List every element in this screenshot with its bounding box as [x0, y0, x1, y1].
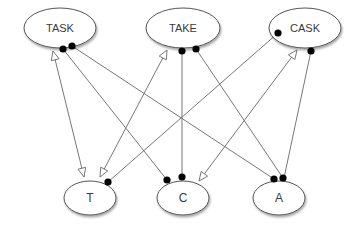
dot-marker-take	[192, 45, 199, 52]
edge-task-c	[63, 49, 167, 180]
edge-task-a	[72, 46, 274, 179]
node-label: TASK	[46, 22, 75, 34]
node-task[interactable]: TASK	[24, 8, 96, 48]
edge-cask-t	[108, 33, 278, 182]
open-arrowhead-icon	[159, 50, 167, 60]
edge-take-a	[196, 49, 283, 178]
dot-marker-task	[59, 45, 66, 52]
diagram-canvas: TASKTAKECASKTCA	[0, 0, 358, 226]
edge-take-t	[100, 50, 167, 177]
node-cask[interactable]: CASK	[269, 8, 341, 48]
node-c[interactable]: C	[157, 181, 209, 215]
dot-marker-take	[178, 47, 185, 54]
dot-marker-cask	[274, 29, 281, 36]
open-arrowhead-icon	[100, 167, 108, 177]
open-arrowhead-icon	[199, 171, 208, 181]
edges-layer	[53, 33, 311, 182]
dot-marker-a	[279, 174, 286, 181]
edge-cask-a	[284, 51, 311, 178]
node-label: C	[179, 191, 188, 205]
node-t[interactable]: T	[64, 181, 116, 215]
markers-layer	[51, 29, 314, 185]
dot-marker-t	[104, 178, 111, 185]
node-label: T	[86, 191, 94, 205]
open-arrowhead-icon	[288, 50, 297, 60]
node-label: TAKE	[169, 22, 197, 34]
node-label: A	[275, 191, 283, 205]
node-label: CASK	[290, 22, 321, 34]
node-take[interactable]: TAKE	[146, 8, 220, 48]
open-arrowhead-icon	[78, 167, 86, 177]
dot-marker-cask	[307, 47, 314, 54]
dot-marker-c	[178, 173, 185, 180]
dot-marker-a	[270, 175, 277, 182]
dot-marker-c	[163, 176, 170, 183]
dot-marker-task	[68, 42, 75, 49]
open-arrowhead-icon	[51, 51, 59, 61]
node-a[interactable]: A	[253, 181, 305, 215]
